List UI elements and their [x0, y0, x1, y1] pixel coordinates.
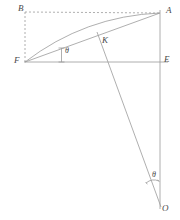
point-label-B: B: [18, 4, 24, 13]
segment-A-to-O: [97, 32, 161, 207]
point-label-A: A: [166, 6, 172, 15]
angle-label-theta-O: θ: [152, 170, 156, 179]
segment-BA-dashed: [25, 12, 160, 13]
point-label-F: F: [14, 56, 20, 65]
point-label-O: O: [162, 204, 169, 213]
point-label-K: K: [102, 36, 108, 45]
theta-tick-marker-F: [59, 48, 65, 62]
segment-FA-chord: [25, 13, 160, 62]
geometry-figure: [0, 0, 180, 220]
point-label-E: E: [164, 55, 170, 64]
angle-label-theta-F: θ: [65, 46, 69, 55]
